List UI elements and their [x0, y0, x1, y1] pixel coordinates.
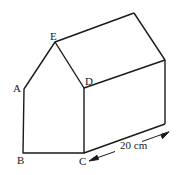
prism-diagram — [0, 0, 179, 175]
front-face — [23, 42, 84, 153]
vertex-label-a: A — [13, 83, 21, 94]
vertex-label-d: D — [85, 76, 93, 87]
vertex-label-b: B — [17, 155, 24, 166]
length-label: 20 cm — [120, 140, 147, 151]
arrowhead-left-icon — [89, 155, 99, 161]
vertex-label-e: E — [50, 31, 57, 42]
ridge-edge — [55, 13, 134, 42]
arrowhead-right-icon — [161, 132, 169, 139]
vertex-label-c: C — [79, 156, 86, 167]
eave-edge — [84, 60, 165, 88]
back-roof-edge — [134, 13, 165, 60]
